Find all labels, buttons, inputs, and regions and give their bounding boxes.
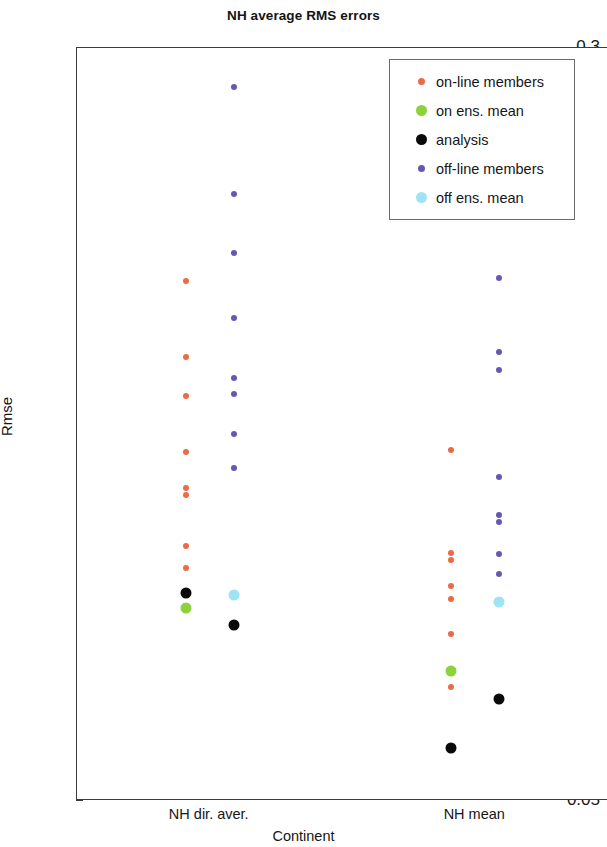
data-point xyxy=(494,693,505,704)
legend-item[interactable]: analysis xyxy=(390,125,574,154)
data-point xyxy=(228,619,239,630)
data-point xyxy=(496,474,502,480)
x-axis-label: Continent xyxy=(0,828,607,844)
legend-item[interactable]: off-line members xyxy=(390,154,574,183)
legend-item[interactable]: on ens. mean xyxy=(390,96,574,125)
data-point xyxy=(446,743,457,754)
legend-item-label: on ens. mean xyxy=(436,103,524,119)
legend-marker-icon xyxy=(406,192,436,203)
data-point xyxy=(496,349,502,355)
legend-marker-dot xyxy=(418,165,425,172)
data-point xyxy=(183,449,189,455)
x-tick-label: NH dir. aver. xyxy=(169,806,249,822)
data-point xyxy=(180,588,191,599)
data-point xyxy=(448,631,454,637)
data-point xyxy=(231,391,237,397)
data-point xyxy=(231,250,237,256)
legend-item-label: off-line members xyxy=(436,161,544,177)
legend-marker-icon xyxy=(406,105,436,116)
chart-legend: on-line memberson ens. meananalysisoff-l… xyxy=(389,59,575,220)
legend-item-label: off ens. mean xyxy=(436,190,524,206)
legend-marker-icon xyxy=(406,78,436,85)
data-point xyxy=(183,278,189,284)
data-point xyxy=(496,512,502,518)
data-point xyxy=(496,367,502,373)
legend-marker-dot xyxy=(416,192,427,203)
x-tick-label: NH mean xyxy=(444,806,505,822)
data-point xyxy=(231,84,237,90)
data-point xyxy=(446,666,457,677)
chart-title: NH average RMS errors xyxy=(0,8,607,23)
data-point xyxy=(448,684,454,690)
data-point xyxy=(231,431,237,437)
legend-item-label: analysis xyxy=(436,132,488,148)
legend-marker-dot xyxy=(418,78,425,85)
legend-marker-dot xyxy=(416,105,427,116)
data-point xyxy=(183,492,189,498)
data-point xyxy=(496,571,502,577)
legend-marker-icon xyxy=(406,134,436,145)
data-point xyxy=(448,596,454,602)
legend-marker-icon xyxy=(406,165,436,172)
data-point xyxy=(228,589,239,600)
legend-item[interactable]: off ens. mean xyxy=(390,183,574,212)
chart-figure: NH average RMS errors 0.050.10.150.20.25… xyxy=(0,0,607,847)
legend-marker-dot xyxy=(416,134,427,145)
data-point xyxy=(448,550,454,556)
data-point xyxy=(183,485,189,491)
data-point xyxy=(448,447,454,453)
data-point xyxy=(183,565,189,571)
data-point xyxy=(448,557,454,563)
data-point xyxy=(183,393,189,399)
data-point xyxy=(183,354,189,360)
data-point xyxy=(496,519,502,525)
y-tick-mark xyxy=(76,800,83,801)
data-point xyxy=(231,191,237,197)
data-point xyxy=(231,375,237,381)
data-point xyxy=(180,603,191,614)
data-point xyxy=(496,275,502,281)
data-point xyxy=(494,597,505,608)
data-point xyxy=(183,543,189,549)
data-point xyxy=(496,551,502,557)
data-point xyxy=(231,465,237,471)
data-point xyxy=(448,583,454,589)
legend-item[interactable]: on-line members xyxy=(390,67,574,96)
y-axis-label: Rmse xyxy=(0,397,15,436)
legend-item-label: on-line members xyxy=(436,74,544,90)
data-point xyxy=(231,315,237,321)
